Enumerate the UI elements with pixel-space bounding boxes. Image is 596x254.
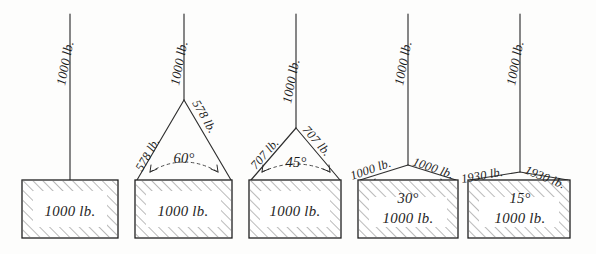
figure-3: 1000 lb. 707 lb. 707 lb. 45° 1000 lb. bbox=[248, 14, 341, 238]
figure-5-top-load-label: 1000 lb. bbox=[503, 40, 526, 87]
figure-5: 1000 lb. 1930 lb. 1930 lb. 15° 1000 lb. bbox=[460, 14, 570, 238]
figure-5-angle-label: 15° bbox=[510, 190, 531, 206]
figure-3-arrow-right bbox=[323, 165, 330, 172]
figure-4-block-label: 1000 lb. bbox=[383, 210, 434, 226]
figure-1-block-label: 1000 lb. bbox=[45, 203, 96, 219]
figure-3-block-label: 1000 lb. bbox=[270, 203, 321, 219]
figure-5-block-label: 1000 lb. bbox=[495, 210, 546, 226]
figure-4: 1000 lb. 1000 lb. 1000 lb. 30° 1000 lb. bbox=[348, 14, 458, 238]
figure-4-top-load-label: 1000 lb. bbox=[391, 40, 414, 87]
figure-1-top-load-label: 1000 lb. bbox=[53, 40, 76, 87]
figure-1: 1000 lb. 1000 lb. bbox=[22, 14, 118, 238]
figure-4-left-leg-label: 1000 lb. bbox=[348, 156, 392, 183]
figure-5-block-hatching bbox=[468, 180, 570, 238]
figure-3-angle-label: 45° bbox=[286, 154, 307, 170]
figure-4-block-hatching bbox=[358, 180, 458, 238]
figure-4-right-leg-label: 1000 lb. bbox=[411, 155, 455, 182]
figure-4-angle-label: 30° bbox=[397, 190, 419, 206]
figure-2-top-load-label: 1000 lb. bbox=[167, 40, 190, 87]
figure-2-angle-label: 60° bbox=[174, 150, 195, 166]
figure-2: 1000 lb. 578 lb. 578 lb. 60° 1000 lb. bbox=[132, 14, 232, 238]
sling-tension-diagram: 1000 lb. 1000 lb. 1000 lb. 578 lb. 578 l… bbox=[0, 0, 596, 254]
figure-3-top-load-label: 1000 lb. bbox=[279, 58, 302, 105]
figure-2-block-label: 1000 lb. bbox=[158, 203, 209, 219]
